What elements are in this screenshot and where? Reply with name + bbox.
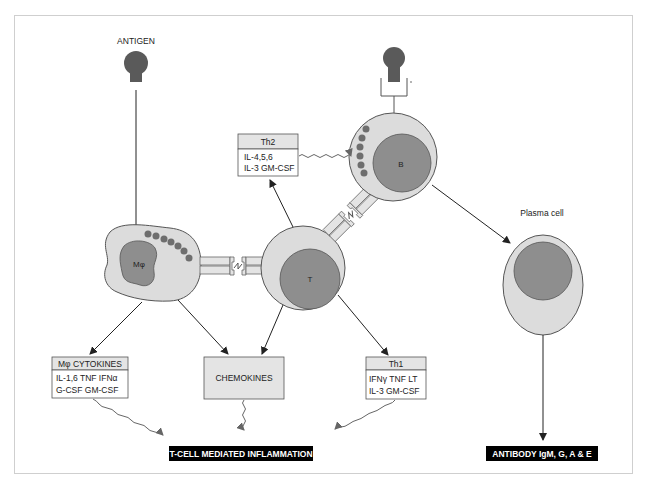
inflammation-output-label: T-CELL MEDIATED INFLAMMATION (169, 449, 312, 459)
t-to-th2-arrow (270, 180, 293, 227)
th2-to-b-wavy-arrow (299, 155, 351, 158)
macrophage-cytokines-title: Mφ CYTOKINES (58, 359, 122, 369)
macrophage-cytokines-line2: G-CSF GM-CSF (56, 385, 118, 395)
plasma-cell (503, 235, 583, 335)
macrophage-cytokines-line1: IL-1,6 TNF IFNα (56, 373, 118, 383)
antibody-output-label: ANTIBODY IgM, G, A & E (492, 449, 592, 459)
t-to-th1-arrow (338, 295, 388, 355)
th1-line1: IFNγ TNF LT (369, 374, 417, 384)
t-to-chemokines-arrow (262, 305, 283, 354)
b-to-plasma-arrow (432, 185, 510, 243)
cytokines-to-inflammation-wavy-arrow (93, 399, 163, 435)
chemokines-to-inflammation-wavy-arrow (243, 400, 246, 430)
th1-to-inflammation-wavy-arrow (335, 400, 395, 429)
th2-line1: IL-4,5,6 (244, 152, 273, 162)
antigen-label: ANTIGEN (117, 36, 155, 46)
chemokines-title: CHEMOKINES (215, 373, 272, 383)
th1-title: Th1 (389, 359, 404, 369)
b-cell-receptor-icon (381, 47, 412, 113)
antigen-icon (124, 51, 148, 82)
b-cell (349, 113, 437, 201)
macrophage-to-cytokines-arrow (90, 302, 142, 354)
macrophage-to-chemokines-arrow (178, 300, 228, 354)
macrophage-t-cell-synapse (200, 257, 268, 275)
b-cell-label: B (398, 160, 403, 169)
macrophage-cell (105, 225, 201, 301)
plasma-cell-label: Plasma cell (520, 208, 564, 218)
th1-line2: IL-3 GM-CSF (369, 386, 420, 396)
macrophage-label: Mφ (133, 260, 145, 269)
immune-response-diagram: ANTIGEN Mφ T (0, 0, 650, 492)
th2-line2: IL-3 GM-CSF (244, 163, 295, 173)
th2-title: Th2 (261, 137, 276, 147)
t-cell-label: T (308, 275, 313, 284)
